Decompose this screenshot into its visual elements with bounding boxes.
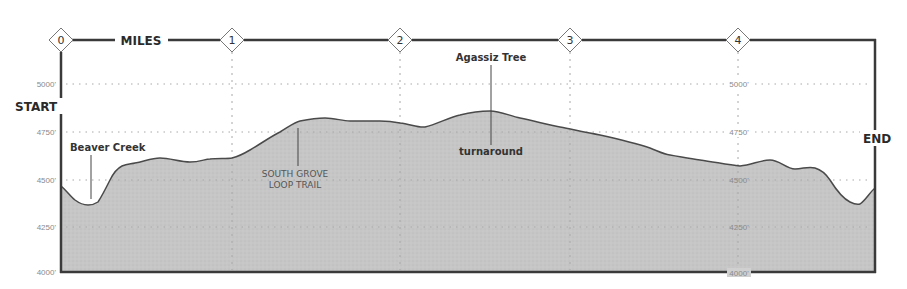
- x-axis-title: MILES: [121, 34, 162, 48]
- y-label-4750: 4750': [37, 128, 57, 137]
- mid-y-label-4500: 4500': [729, 176, 749, 185]
- mile-marker-3: 3: [558, 28, 582, 52]
- svg-text:1: 1: [229, 34, 236, 47]
- mile-marker-2: 2: [388, 28, 412, 52]
- y-label-4500: 4500': [37, 176, 57, 185]
- agassiz-tree-label: Agassiz Tree: [456, 52, 527, 63]
- south-grove-label-line1: SOUTH GROVE: [262, 169, 329, 179]
- y-label-4250: 4250': [37, 223, 57, 232]
- mid-y-label-4000: 4000': [729, 269, 749, 278]
- south-grove-label-line2: LOOP TRAIL: [269, 180, 321, 190]
- mid-y-label-5000: 5000': [729, 80, 749, 89]
- mid-y-label-4250: 4250': [729, 223, 749, 232]
- start-label: START: [15, 100, 58, 114]
- elevation-profile-chart: 0 1 2 3 4 MILES 5000' 4750' 4500' 4250' …: [0, 0, 907, 289]
- y-label-4000: 4000': [37, 268, 57, 277]
- mile-marker-1: 1: [220, 28, 244, 52]
- mile-marker-4: 4: [726, 28, 750, 52]
- svg-text:3: 3: [567, 34, 574, 47]
- turnaround-label: turnaround: [459, 146, 523, 157]
- y-label-5000: 5000': [37, 80, 57, 89]
- svg-text:0: 0: [58, 34, 65, 47]
- end-label: END: [863, 132, 891, 146]
- svg-text:2: 2: [397, 34, 404, 47]
- mile-marker-0: 0: [49, 28, 73, 52]
- beaver-creek-label: Beaver Creek: [70, 142, 146, 153]
- mid-y-label-4750: 4750': [729, 128, 749, 137]
- svg-text:4: 4: [735, 34, 742, 47]
